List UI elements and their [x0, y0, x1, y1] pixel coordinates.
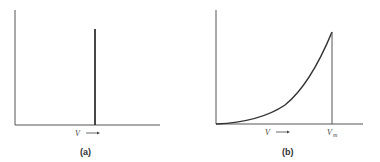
x-axis-label: V [265, 128, 271, 137]
caption-a: (a) [80, 147, 91, 157]
distribution-curve [216, 32, 332, 124]
x-axis-label: V [75, 129, 81, 138]
panel-a: V (a) [15, 10, 160, 157]
caption-b: (b) [282, 147, 294, 157]
panel-b: V V m (b) [216, 10, 363, 157]
figure: V (a) V V m (b) [0, 0, 380, 162]
arrow-head-icon [97, 132, 100, 135]
arrow-head-icon [287, 131, 290, 134]
vm-subscript: m [333, 132, 338, 138]
